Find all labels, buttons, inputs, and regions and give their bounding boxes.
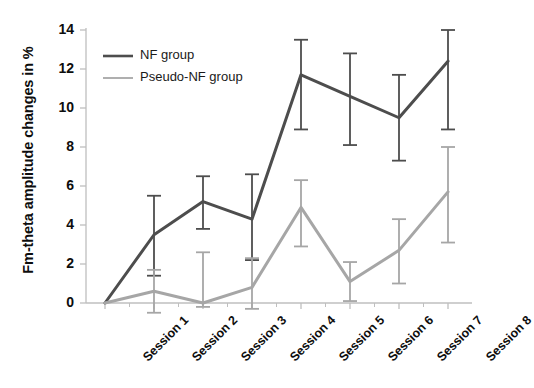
error-bars-pseudo <box>147 147 455 313</box>
y-tick-label: 10 <box>46 99 74 115</box>
series-line-nf-group <box>105 61 448 303</box>
y-tick-label: 12 <box>46 60 74 76</box>
legend-label-nf-group: NF group <box>140 47 194 62</box>
x-tick-label-session-8: Session 8 <box>483 313 534 364</box>
legend-label-pseudo-nf-group: Pseudo-NF group <box>140 69 243 84</box>
y-tick-label: 6 <box>46 177 74 193</box>
series-line-pseudo-nf-group <box>105 192 448 303</box>
y-tick-label: 0 <box>46 294 74 310</box>
y-tick-label: 14 <box>46 21 74 37</box>
y-tick-label: 2 <box>46 255 74 271</box>
y-tick-label: 8 <box>46 138 74 154</box>
y-tick-label: 4 <box>46 216 74 232</box>
